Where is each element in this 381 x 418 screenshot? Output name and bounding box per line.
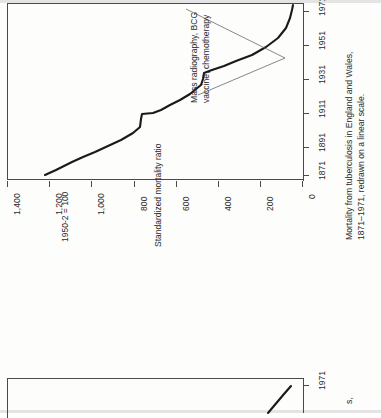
annotation-line-1: Mass radiography, BCG (189, 12, 200, 103)
xtick-label-1911: 1911 (317, 100, 327, 118)
second-chart-caption-fragment: s, (344, 397, 356, 404)
y-axis-note: 1950-2 = 100 (60, 192, 70, 242)
xtick-label-1971: 1971 (317, 0, 327, 16)
caption-line-1: Mortality from tuberculosis in England a… (344, 52, 356, 240)
xtick-mark-1911 (303, 113, 309, 114)
ytick-label-200: 200 (265, 197, 275, 211)
xtick-mark-1891 (303, 147, 309, 148)
ytick-mark-200 (260, 181, 261, 187)
ytick-mark-1200 (49, 181, 50, 187)
xtick-mark-1931 (303, 79, 309, 80)
ytick-label-1000: 1,000 (96, 193, 106, 215)
annotation-line-2: vaccine, chemotherapy (201, 15, 212, 103)
ytick-label-600: 600 (181, 197, 191, 211)
ytick-label-0: 0 (307, 194, 317, 199)
ytick-label-800: 800 (139, 197, 149, 211)
xtick-label-1931: 1931 (317, 65, 327, 84)
second-chart-xtick-mark-1971 (303, 385, 309, 386)
ytick-mark-400 (218, 181, 219, 187)
xtick-mark-1971 (303, 11, 309, 12)
xtick-mark-1871 (303, 175, 309, 176)
ytick-label-400: 400 (223, 197, 233, 211)
caption-line-2: 1871–1971, redrawn on a linear scale. (356, 94, 368, 240)
second-chart-xtick-label-1971: 1971 (317, 371, 327, 390)
xtick-label-1951: 1951 (317, 31, 327, 50)
ytick-mark-1000 (91, 181, 92, 187)
xtick-mark-1951 (303, 45, 309, 46)
second-chart-plot-frame (7, 378, 303, 418)
ytick-label-1400: 1,400 (12, 193, 22, 215)
xtick-label-1871: 1871 (317, 161, 327, 180)
y-axis-title: Standardized mortality ratio (153, 144, 163, 247)
ytick-mark-800 (134, 181, 135, 187)
ytick-mark-600 (176, 181, 177, 187)
second-chart-time-axis (303, 378, 304, 413)
ytick-mark-0 (302, 181, 303, 187)
time-axis-spine (303, 3, 304, 181)
ytick-mark-1400 (7, 181, 8, 187)
xtick-label-1891: 1891 (317, 133, 327, 152)
